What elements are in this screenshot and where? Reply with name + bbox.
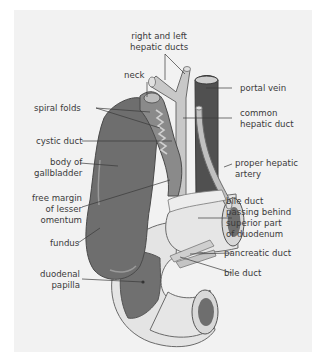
label-line: right and left	[130, 31, 188, 42]
label-line: portal vein	[240, 83, 286, 94]
label-line: hepatic ducts	[130, 42, 188, 53]
label-line: free margin	[32, 193, 82, 204]
label-line: body of	[34, 157, 82, 168]
label-pancreatic-duct: pancreatic duct	[224, 248, 291, 259]
label-line: omentum	[32, 215, 82, 226]
label-line: passing behind	[226, 207, 291, 218]
label-line: fundus	[50, 238, 79, 249]
label-line: artery	[235, 169, 298, 180]
label-line: bile duct	[224, 268, 261, 279]
label-portal-vein: portal vein	[240, 83, 286, 94]
label-line: duodenal	[40, 269, 80, 280]
label-bile-duct-behind-duodenum: bile duct passing behind superior part o…	[226, 196, 291, 240]
label-line: proper hepatic	[235, 158, 298, 169]
label-line: superior part	[226, 218, 291, 229]
label-line: of duodenum	[226, 229, 291, 240]
label-common-hepatic-duct: common hepatic duct	[240, 108, 294, 130]
label-line: papilla	[40, 280, 80, 291]
label-bile-duct: bile duct	[224, 268, 261, 279]
label-free-margin-lesser-omentum: free margin of lesser omentum	[32, 193, 82, 226]
label-line: common	[240, 108, 294, 119]
label-spiral-folds: spiral folds	[34, 103, 81, 114]
label-proper-hepatic-artery: proper hepatic artery	[235, 158, 298, 180]
label-body-of-gallbladder: body of gallbladder	[34, 157, 82, 179]
label-neck: neck	[124, 70, 144, 81]
label-duodenal-papilla: duodenal papilla	[40, 269, 80, 291]
label-line: pancreatic duct	[224, 248, 291, 259]
label-right-left-hepatic-ducts: right and left hepatic ducts	[130, 31, 188, 53]
label-line: spiral folds	[34, 103, 81, 114]
label-line: bile duct	[226, 196, 291, 207]
label-line: gallbladder	[34, 168, 82, 179]
label-line: cystic duct	[36, 136, 83, 147]
label-line: neck	[124, 70, 144, 81]
label-fundus: fundus	[50, 238, 79, 249]
label-line: of lesser	[32, 204, 82, 215]
anatomy-illustration	[0, 0, 324, 363]
label-cystic-duct: cystic duct	[36, 136, 83, 147]
label-line: hepatic duct	[240, 119, 294, 130]
